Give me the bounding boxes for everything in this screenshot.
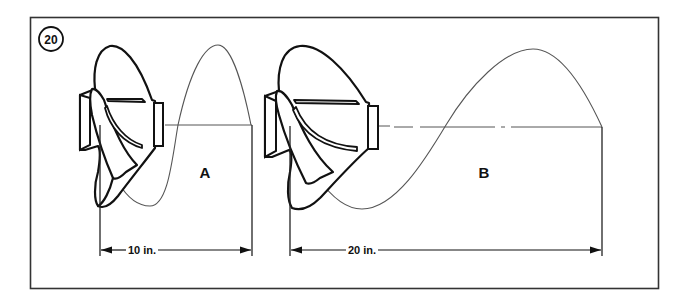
hub-rear-b — [265, 96, 276, 157]
arrow-right-icon — [240, 247, 251, 254]
hub-rear-a — [80, 95, 90, 150]
arrow-right-icon — [590, 247, 601, 254]
figure-number: 20 — [44, 33, 58, 47]
panel-label-a: A — [200, 164, 211, 181]
panel-b: 20 in. B — [265, 46, 602, 256]
arrow-left-icon — [101, 247, 112, 254]
propeller-b — [265, 46, 378, 209]
blade-slot-upper-b — [294, 100, 359, 104]
dimension-b: 20 in. — [291, 244, 601, 256]
pitch-label-a: 10 in. — [128, 244, 156, 256]
propeller-a — [80, 46, 163, 207]
propeller-pitch-diagram: 20 — [0, 0, 691, 302]
pitch-label-b: 20 in. — [348, 244, 376, 256]
figure-number-badge: 20 — [39, 27, 63, 51]
hub-nose-a — [154, 103, 163, 146]
blade-outline-b — [265, 46, 369, 209]
blade-slot-upper-a — [107, 99, 145, 102]
panel-a: 10 in. A — [80, 45, 252, 256]
panel-label-b: B — [479, 164, 490, 181]
arrow-left-icon — [291, 247, 302, 254]
dimension-a: 10 in. — [101, 244, 251, 256]
hub-nose-b — [368, 106, 378, 149]
